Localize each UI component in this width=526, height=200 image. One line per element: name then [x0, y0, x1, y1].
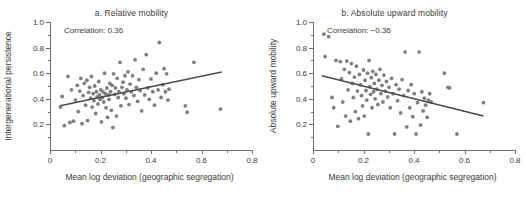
- scatter-point: [151, 90, 155, 94]
- x-tick-label: 0.8: [509, 156, 520, 165]
- scatter-point: [344, 114, 348, 118]
- x-tick: [50, 150, 51, 154]
- scatter-point: [373, 97, 377, 101]
- scatter-point: [396, 99, 400, 103]
- x-tick-label: 0: [311, 156, 315, 165]
- scatter-point: [183, 104, 187, 108]
- scatter-point: [332, 106, 336, 110]
- scatter-point: [357, 117, 361, 121]
- scatter-point: [91, 92, 95, 96]
- scatter-point: [185, 110, 189, 114]
- scatter-point: [369, 76, 373, 80]
- panel-b-y-axis-label: Absolute upward mobility: [269, 22, 283, 150]
- scatter-point: [102, 100, 106, 104]
- scatter-point: [353, 75, 357, 79]
- scatter-point: [141, 67, 145, 71]
- scatter-point: [356, 89, 360, 93]
- scatter-point: [385, 80, 389, 84]
- scatter-point: [68, 121, 72, 125]
- scatter-point: [397, 87, 401, 91]
- scatter-point: [86, 119, 90, 123]
- scatter-point: [127, 103, 131, 107]
- scatter-point: [162, 67, 166, 71]
- y-tick-label: 0.4: [296, 94, 307, 103]
- scatter-point: [338, 60, 342, 64]
- panel-b-x-axis-label: Mean log deviation (geographic segregati…: [303, 172, 522, 182]
- scatter-point: [119, 104, 123, 108]
- scatter-point: [75, 83, 79, 87]
- scatter-point: [323, 55, 327, 59]
- panel-b-plot-area: Correlation: −0.36 0.20.40.60.81.0 00.20…: [313, 22, 515, 150]
- scatter-point: [167, 87, 171, 91]
- scatter-point: [78, 89, 82, 93]
- scatter-point: [82, 82, 86, 86]
- scatter-point: [140, 109, 144, 113]
- scatter-point: [163, 90, 167, 94]
- panel-b-points: [322, 32, 485, 136]
- panel-b-scatter-plot: [313, 22, 515, 150]
- scatter-point: [90, 75, 94, 79]
- scatter-point: [382, 73, 386, 77]
- x-tick: [101, 150, 102, 154]
- scatter-point: [128, 82, 132, 86]
- scatter-point: [70, 88, 74, 92]
- scatter-point: [372, 82, 376, 86]
- scatter-point: [112, 72, 116, 76]
- scatter-point: [412, 92, 416, 96]
- scatter-point: [362, 68, 366, 72]
- scatter-point: [134, 85, 138, 89]
- y-tick-label: 0.6: [33, 69, 44, 78]
- x-tick-minor: [126, 150, 127, 153]
- scatter-point: [394, 83, 398, 87]
- scatter-point: [149, 77, 153, 81]
- panel-a-trend-line: [60, 72, 222, 106]
- scatter-point: [116, 96, 120, 100]
- scatter-point: [95, 90, 99, 94]
- scatter-point: [118, 60, 122, 64]
- x-tick: [151, 150, 152, 154]
- panel-b-trend-line: [322, 76, 484, 116]
- scatter-point: [387, 85, 391, 89]
- scatter-point: [106, 115, 110, 119]
- scatter-point: [455, 132, 459, 136]
- y-tick-label: 0.2: [33, 120, 44, 129]
- scatter-point: [346, 88, 350, 92]
- scatter-point: [347, 71, 351, 75]
- scatter-point: [364, 89, 368, 93]
- scatter-point: [153, 103, 157, 107]
- y-tick-label: 0.8: [296, 43, 307, 52]
- scatter-point: [406, 89, 410, 93]
- x-tick-minor: [176, 150, 177, 153]
- scatter-point: [115, 114, 119, 118]
- scatter-point: [366, 132, 370, 136]
- scatter-point: [66, 75, 70, 79]
- scatter-point: [120, 85, 124, 89]
- scatter-point: [482, 101, 486, 105]
- scatter-point: [408, 106, 412, 110]
- y-tick-label: 0.8: [33, 43, 44, 52]
- x-tick: [515, 150, 516, 154]
- scatter-point: [97, 80, 101, 84]
- scatter-point: [400, 78, 404, 82]
- scatter-point: [393, 132, 397, 136]
- scatter-point: [157, 41, 161, 45]
- scatter-point: [405, 125, 409, 129]
- scatter-point: [448, 86, 452, 90]
- x-tick-minor: [439, 150, 440, 153]
- y-tick-label: 1.0: [33, 18, 44, 27]
- scatter-point: [362, 114, 366, 118]
- scatter-point: [114, 86, 118, 90]
- figure-container: a. Relative mobility Intergenerational p…: [0, 0, 526, 200]
- scatter-point: [355, 64, 359, 68]
- scatter-point: [60, 95, 64, 99]
- scatter-point: [417, 50, 421, 54]
- scatter-point: [81, 94, 85, 98]
- scatter-point: [126, 70, 130, 74]
- x-tick: [414, 150, 415, 154]
- scatter-point: [425, 115, 429, 119]
- scatter-point: [133, 58, 137, 62]
- x-tick-minor: [338, 150, 339, 153]
- y-tick-label: 1.0: [296, 18, 307, 27]
- x-tick-minor: [389, 150, 390, 153]
- scatter-point: [123, 74, 127, 78]
